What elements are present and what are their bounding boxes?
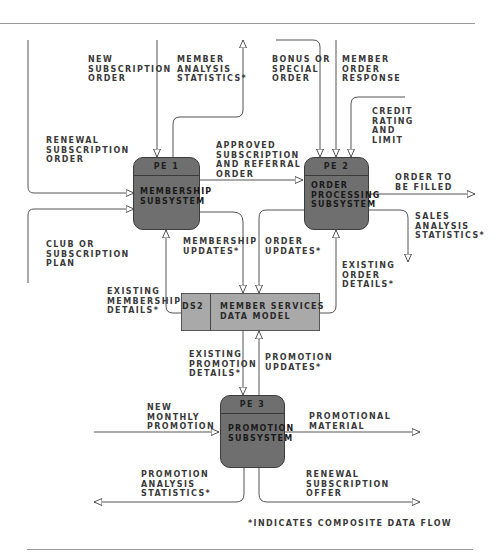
flow-label-new-subscription-order: NEW SUBSCRIPTION ORDER [88, 55, 172, 84]
flow-label-new-monthly-promotion: NEW MONTHLY PROMOTION [147, 403, 215, 432]
process-pe2-id: PE 2 [324, 162, 350, 171]
process-pe2-header: PE 2 [305, 158, 368, 176]
process-pe1-membership[interactable]: PE 1 MEMBERSHIP SUBSYSTEM [133, 157, 200, 230]
flow-label-existing-membership-details: EXISTING MEMBERSHIP DETAILS* [107, 287, 181, 316]
footnote: *INDICATES COMPOSITE DATA FLOW [248, 519, 452, 529]
data-store-id: DS2 [182, 294, 211, 330]
flow-label-sales-analysis-statistics: SALES ANALYSIS STATISTICS* [415, 212, 485, 241]
process-pe3-header: PE 3 [221, 396, 284, 414]
flow-label-order-updates: ORDER UPDATES* [265, 237, 322, 256]
process-pe2-order-processing[interactable]: PE 2 ORDER PROCESSING SUBSYSTEM [304, 157, 369, 230]
flow-label-promotional-material: PROMOTIONAL MATERIAL [309, 412, 391, 431]
flow-label-renewal-subscription-offer: RENEWAL SUBSCRIPTION OFFER [306, 470, 390, 499]
process-pe1-id: PE 1 [154, 162, 180, 171]
process-pe1-name: MEMBERSHIP SUBSYSTEM [140, 187, 197, 206]
process-pe2-name: ORDER PROCESSING SUBSYSTEM [311, 181, 366, 210]
flow-label-credit-rating-and-limit: CREDIT RATING AND LIMIT [372, 107, 414, 145]
flow-label-existing-promotion-details: EXISTING PROMOTION DETAILS* [189, 350, 257, 379]
flow-label-order-to-be-filled: ORDER TO BE FILLED [395, 173, 453, 192]
process-pe1-header: PE 1 [134, 158, 199, 176]
flow-label-approved-subscription: APPROVED SUBSCRIPTION AND REFERRAL ORDER [216, 141, 301, 179]
flow-label-promotion-analysis-statistics: PROMOTION ANALYSIS STATISTICS* [141, 470, 211, 499]
process-pe3-id: PE 3 [240, 400, 266, 409]
data-store-name: MEMBER SERVICES DATA MODEL [211, 294, 325, 330]
flow-label-membership-updates: MEMBERSHIP UPDATES* [183, 237, 257, 256]
flow-label-existing-order-details: EXISTING ORDER DETAILS* [342, 261, 395, 290]
process-pe3-name: PROMOTION SUBSYSTEM [228, 424, 282, 443]
process-pe3-promotion[interactable]: PE 3 PROMOTION SUBSYSTEM [220, 395, 285, 468]
flow-label-renewal-subscription-order: RENEWAL SUBSCRIPTION ORDER [46, 136, 130, 165]
data-flow-diagram: PE 1 MEMBERSHIP SUBSYSTEM PE 2 ORDER PRO… [0, 0, 502, 557]
flow-label-bonus-or-special-order: BONUS OR SPECIAL ORDER [272, 55, 331, 84]
flow-label-member-order-response: MEMBER ORDER RESPONSE [342, 55, 401, 84]
flow-lines [0, 0, 502, 557]
flow-label-member-analysis-statistics: MEMBER ANALYSIS STATISTICS* [177, 55, 247, 84]
flow-label-promotion-updates: PROMOTION UPDATES* [265, 353, 333, 372]
data-store-ds2[interactable]: DS2 MEMBER SERVICES DATA MODEL [181, 293, 320, 331]
flow-label-club-or-subscription-plan: CLUB OR SUBSCRIPTION PLAN [46, 240, 130, 269]
